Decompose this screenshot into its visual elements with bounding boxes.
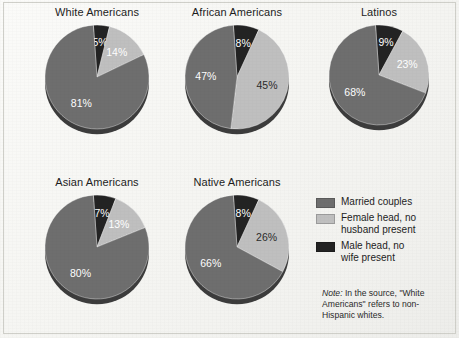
chart-title: Native Americans <box>168 176 306 188</box>
slice-percent-label: 80% <box>70 267 91 279</box>
legend-item: Married couples <box>316 196 456 208</box>
pie-graphic: 9%23%68% <box>310 22 448 138</box>
pie-graphic: 5%14%81% <box>28 22 166 142</box>
figure-note: Note: In the source, "White Americans" r… <box>322 288 450 321</box>
chart-title: Latinos <box>310 6 448 18</box>
note-label: Note: <box>322 288 343 298</box>
legend-item-label: Male head, nowife present <box>341 240 404 264</box>
chart-title: African Americans <box>168 6 306 18</box>
slice-percent-label: 14% <box>106 46 127 58</box>
legend-swatch-married <box>316 198 335 208</box>
slice-percent-label: 45% <box>257 79 278 91</box>
slice-percent-label: 8% <box>236 37 251 49</box>
slice-percent-label: 8% <box>236 207 251 219</box>
chart-title: White Americans <box>28 6 166 18</box>
slice-percent-label: 26% <box>256 231 277 243</box>
legend-swatch-male-head <box>316 242 335 252</box>
slice-percent-label: 7% <box>95 207 110 219</box>
pie-graphic: 8%45%47% <box>168 22 306 142</box>
legend-item: Male head, nowife present <box>316 240 456 264</box>
pie-graphic: 7%13%80% <box>28 192 166 312</box>
pie-graphic: 8%26%66% <box>168 192 306 312</box>
legend-item: Female head, nohusband present <box>316 212 456 236</box>
slice-percent-label: 13% <box>108 218 129 230</box>
slice-percent-label: 68% <box>344 86 365 98</box>
slice-percent-label: 47% <box>195 70 216 82</box>
legend-item-label: Married couples <box>341 196 412 208</box>
slice-percent-label: 81% <box>71 97 92 109</box>
slice-percent-label: 9% <box>378 36 393 48</box>
legend-swatch-female-head <box>316 214 335 224</box>
legend-item-label: Female head, nohusband present <box>341 212 416 236</box>
legend: Married couplesFemale head, nohusband pr… <box>316 196 456 268</box>
figure-canvas: White Americans5%14%81%African Americans… <box>0 0 459 338</box>
chart-title: Asian Americans <box>28 176 166 188</box>
slice-percent-label: 23% <box>397 58 418 70</box>
slice-percent-label: 66% <box>200 257 221 269</box>
